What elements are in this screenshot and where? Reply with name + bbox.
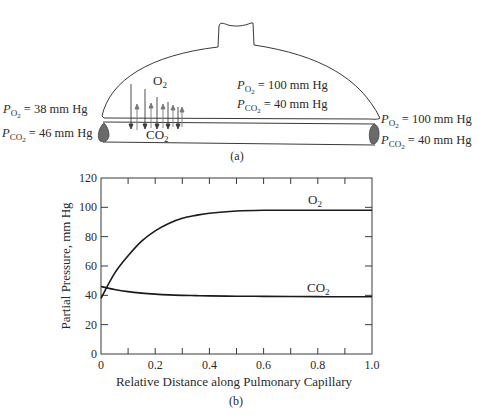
x-tick-label: 0.8 <box>310 358 325 372</box>
venous-po2-text: PO2 = 38 mm Hg <box>2 102 88 120</box>
y-axis-label: Partial Pressure, mm Hg <box>58 202 73 330</box>
y-tick-label: 120 <box>79 171 97 185</box>
alveolus-capillary-diagram: O2 CO2 PO2 = 100 mm Hg PCO2 = 40 mm Hg P… <box>1 23 472 163</box>
x-tick-label: 0.2 <box>148 358 163 372</box>
o2-curve <box>101 210 372 298</box>
alveolus-pco2-text: PCO2 = 40 mm Hg <box>236 97 328 115</box>
figure: O2 CO2 PO2 = 100 mm Hg PCO2 = 40 mm Hg P… <box>0 0 479 415</box>
x-axis-label: Relative Distance along Pulmonary Capill… <box>116 374 353 389</box>
y-tick-label: 100 <box>79 200 97 214</box>
venous-pco2-text: PCO2 = 46 mm Hg <box>1 126 93 144</box>
arterial-po2-text: PO2 = 100 mm Hg <box>380 112 472 130</box>
o2-series-label: O2 <box>308 192 322 209</box>
caption-b: (b) <box>229 394 243 408</box>
y-tick-label: 60 <box>85 259 97 273</box>
caption-a: (a) <box>230 149 243 163</box>
plot-frame <box>101 178 372 354</box>
blood-cell-venous-end <box>98 123 109 142</box>
capillary-co2-label: CO2 <box>146 127 169 144</box>
axis-ticks <box>101 178 372 354</box>
co2-curve <box>101 287 372 297</box>
axis-tick-labels: 00.20.40.60.81.0020406080100120 <box>79 171 380 372</box>
y-tick-label: 20 <box>85 318 97 332</box>
co2-series-label: CO2 <box>307 280 330 297</box>
y-tick-label: 0 <box>91 347 97 361</box>
alveolus-po2-text: PO2 = 100 mm Hg <box>236 78 328 96</box>
x-tick-label: 0.6 <box>256 358 271 372</box>
capillary-bottom-wall <box>103 142 375 145</box>
x-tick-label: 1.0 <box>365 358 380 372</box>
y-tick-label: 80 <box>85 230 97 244</box>
x-tick-label: 0 <box>98 358 104 372</box>
y-tick-label: 40 <box>85 288 97 302</box>
arterial-pco2-text: PCO2 = 40 mm Hg <box>380 133 472 151</box>
alveolus-o2-label: O2 <box>153 73 167 90</box>
x-tick-label: 0.4 <box>202 358 217 372</box>
diffusion-arrows <box>129 84 184 130</box>
blood-cell-arterial-end <box>369 124 379 144</box>
partial-pressure-chart: 00.20.40.60.81.0020406080100120 O2 CO2 P… <box>58 171 380 408</box>
